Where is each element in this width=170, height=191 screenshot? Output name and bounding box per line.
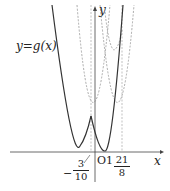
- tick-one-label: 1: [106, 155, 113, 166]
- graph-figure: y=g(x) y x O 1 − 3 10 21 8: [0, 0, 170, 191]
- solid-curve-left: [52, 5, 91, 147]
- fraction-numerator: 21: [114, 155, 130, 167]
- x-axis-label: x: [154, 155, 161, 167]
- origin-label: O: [97, 155, 106, 166]
- function-label: y=g(x): [16, 40, 57, 52]
- dashed-parabola-left: [77, 5, 110, 103]
- fraction-denominator: 8: [114, 167, 130, 178]
- fraction-21-8: 21 8: [114, 155, 130, 178]
- fraction-neg-3-10: 3 10: [73, 159, 89, 182]
- y-axis-label: y: [99, 4, 106, 16]
- negative-sign: −: [63, 168, 72, 179]
- fraction-numerator: 3: [73, 159, 89, 171]
- fraction-denominator: 10: [73, 171, 89, 182]
- y-axis-arrow-icon: [93, 6, 97, 11]
